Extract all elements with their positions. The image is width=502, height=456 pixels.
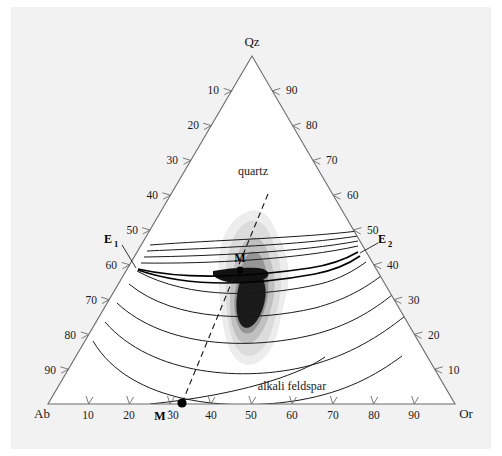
annotation-e2: E 2 [378, 232, 392, 249]
field-label-alkali-feldspar: alkali feldspar [258, 379, 326, 393]
bottom-tick-label-70: 70 [327, 409, 339, 421]
annotation-e1-base: E [104, 232, 112, 246]
vertex-label-or: Or [459, 406, 473, 421]
m-point-marker[interactable] [237, 267, 244, 274]
vertex-label-ab: Ab [34, 406, 50, 421]
ternary-diagram-figure: Qz Ab Or 90 80 70 60 50 40 30 20 10 90 8… [0, 0, 502, 456]
bottom-tick-label-60: 60 [286, 409, 298, 421]
left-tick-label-60: 60 [106, 259, 118, 271]
left-tick-label-90: 90 [45, 364, 57, 376]
right-tick-label-20: 20 [428, 329, 440, 341]
m-prime-point-marker[interactable] [177, 398, 186, 407]
annotation-m-prime-mark: ' [169, 408, 171, 418]
bottom-tick-label-90: 90 [408, 409, 420, 421]
right-tick-label-40: 40 [387, 259, 399, 271]
right-tick-label-30: 30 [408, 294, 420, 306]
vertex-label-qz: Qz [244, 34, 259, 49]
right-tick-label-50: 50 [367, 224, 379, 236]
left-tick-label-70: 70 [86, 294, 98, 306]
annotation-e1: E 1 [104, 232, 118, 249]
left-tick-label-30: 30 [167, 154, 179, 166]
right-tick-label-70: 70 [326, 154, 338, 166]
right-tick-label-90: 90 [286, 84, 298, 96]
bottom-tick-label-50: 50 [245, 409, 257, 421]
left-tick-label-80: 80 [65, 329, 77, 341]
bottom-tick-label-10: 10 [82, 409, 94, 421]
bottom-tick-label-80: 80 [368, 409, 380, 421]
ternary-plot-svg: Qz Ab Or 90 80 70 60 50 40 30 20 10 90 8… [0, 0, 502, 456]
left-tick-label-50: 50 [127, 224, 139, 236]
field-label-quartz: quartz [238, 164, 268, 178]
right-tick-label-60: 60 [347, 189, 359, 201]
right-tick-label-10: 10 [448, 364, 460, 376]
annotation-e2-subscript: 2 [388, 239, 392, 249]
annotation-m: M [234, 251, 245, 265]
bottom-tick-label-40: 40 [205, 409, 217, 421]
annotation-m-prime-base: M [154, 409, 165, 423]
left-tick-label-40: 40 [147, 189, 159, 201]
annotation-e2-base: E [378, 232, 386, 246]
right-tick-label-80: 80 [306, 119, 318, 131]
left-tick-label-10: 10 [208, 84, 220, 96]
annotation-e1-subscript: 1 [114, 239, 118, 249]
bottom-tick-label-20: 20 [123, 409, 135, 421]
left-tick-label-20: 20 [188, 119, 200, 131]
